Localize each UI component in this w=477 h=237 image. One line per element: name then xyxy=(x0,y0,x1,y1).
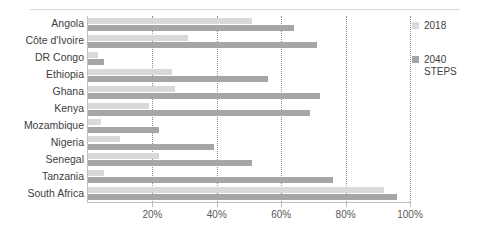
y-axis-category-label: Senegal xyxy=(45,153,84,165)
x-tick-mark xyxy=(152,203,153,207)
bar-2018 xyxy=(88,18,252,24)
chart-container: 20%40%60%80%100% AngolaCôte d'IvoireDR C… xyxy=(0,0,477,237)
bar-2040-steps xyxy=(88,194,397,200)
y-axis-category-label: South Africa xyxy=(27,187,84,199)
bar-2018 xyxy=(88,119,101,125)
x-axis-line xyxy=(88,202,411,203)
bar-2018 xyxy=(88,136,120,142)
bar-2040-steps xyxy=(88,127,159,133)
bar-2018 xyxy=(88,187,384,193)
y-axis-category-label: Kenya xyxy=(54,102,84,114)
y-axis-category-label: Ethiopia xyxy=(46,68,84,80)
bar-2018 xyxy=(88,35,188,41)
x-tick-mark xyxy=(346,203,347,207)
chart-title-clipped xyxy=(112,0,292,3)
bar-2040-steps xyxy=(88,144,214,150)
bar-2018 xyxy=(88,86,175,92)
x-tick-label: 100% xyxy=(397,209,423,220)
x-tick-mark xyxy=(410,203,411,207)
bar-2018 xyxy=(88,153,159,159)
gridline xyxy=(346,16,347,202)
bar-2040-steps xyxy=(88,25,294,31)
y-axis-category-label: Nigeria xyxy=(51,136,84,148)
legend-item-2018[interactable]: 2018 xyxy=(412,20,446,32)
bar-2040-steps xyxy=(88,42,317,48)
bar-2040-steps xyxy=(88,76,268,82)
x-tick-mark xyxy=(217,203,218,207)
y-axis-category-label: Mozambique xyxy=(24,119,84,131)
x-tick-label: 20% xyxy=(142,209,162,220)
legend-item-2040-steps[interactable]: 2040 STEPS xyxy=(412,54,457,78)
legend-label: 2018 xyxy=(424,20,446,32)
legend-swatch-icon xyxy=(412,22,419,29)
bar-2040-steps xyxy=(88,93,320,99)
bar-2040-steps xyxy=(88,110,310,116)
bar-2018 xyxy=(88,52,98,58)
bar-2040-steps xyxy=(88,160,252,166)
y-axis-category-label: Côte d'Ivoire xyxy=(25,34,84,46)
gridline xyxy=(410,16,411,202)
bar-2040-steps xyxy=(88,177,333,183)
legend-swatch-icon xyxy=(412,56,419,63)
bar-2018 xyxy=(88,170,104,176)
legend-label: 2040 STEPS xyxy=(424,54,457,78)
x-tick-label: 80% xyxy=(336,209,356,220)
top-divider xyxy=(30,9,460,10)
x-tick-label: 60% xyxy=(271,209,291,220)
bar-2040-steps xyxy=(88,59,104,65)
y-axis-category-label: DR Congo xyxy=(35,51,84,63)
bar-2018 xyxy=(88,103,149,109)
y-axis-category-label: Ghana xyxy=(52,85,84,97)
bar-2018 xyxy=(88,69,172,75)
x-tick-mark xyxy=(281,203,282,207)
y-axis-category-label: Angola xyxy=(51,17,84,29)
x-tick-label: 40% xyxy=(207,209,227,220)
y-axis-category-label: Tanzania xyxy=(42,170,84,182)
